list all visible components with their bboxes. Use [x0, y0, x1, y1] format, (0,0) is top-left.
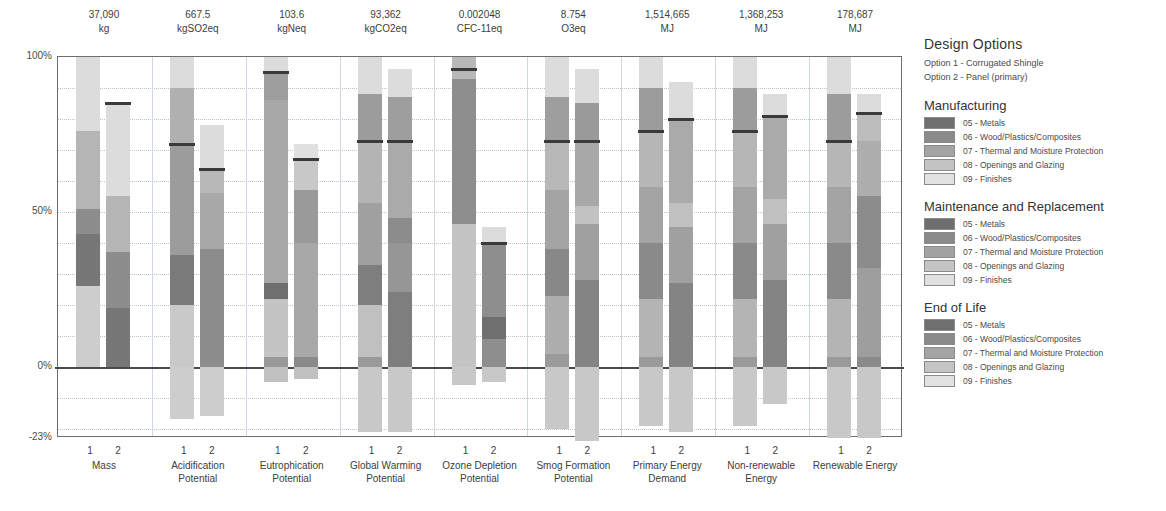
- bar-segment: [827, 57, 851, 94]
- stacked-bar[interactable]: [482, 57, 506, 438]
- bar-segment: [857, 357, 881, 366]
- stacked-bar[interactable]: [545, 57, 569, 438]
- category-value-header: 1,514,665MJ: [620, 8, 714, 36]
- legend-item[interactable]: 08 - Openings and Glazing: [924, 260, 1166, 272]
- stacked-bar[interactable]: [106, 57, 130, 438]
- legend-item[interactable]: 07 - Thermal and Moisture Protection: [924, 347, 1166, 359]
- total-marker: [169, 143, 195, 146]
- bar-index-label: 1: [827, 444, 855, 457]
- bar-segment: [482, 227, 506, 242]
- legend-swatch-icon: [924, 232, 955, 244]
- legend-item[interactable]: 06 - Wood/Plastics/Composites: [924, 232, 1166, 244]
- legend-item[interactable]: 09 - Finishes: [924, 375, 1166, 387]
- stacked-bar[interactable]: [200, 57, 224, 438]
- y-axis-tick: 50%: [0, 205, 52, 216]
- legend-item[interactable]: 06 - Wood/Plastics/Composites: [924, 131, 1166, 143]
- legend-item-label: 09 - Finishes: [963, 376, 1012, 386]
- legend-item[interactable]: 05 - Metals: [924, 218, 1166, 230]
- legend-item[interactable]: 07 - Thermal and Moisture Protection: [924, 246, 1166, 258]
- bar-segment: [106, 196, 130, 252]
- bar-index-label: 1: [733, 444, 761, 457]
- legend-item[interactable]: 09 - Finishes: [924, 274, 1166, 286]
- bar-segment: [264, 100, 288, 283]
- bar-index-labels: 12: [433, 444, 527, 457]
- legend-swatch-icon: [924, 260, 955, 272]
- legend-swatch-icon: [924, 159, 955, 171]
- stacked-bar[interactable]: [669, 57, 693, 438]
- category-name: Ozone Depletion Potential: [433, 459, 527, 485]
- legend-item[interactable]: 05 - Metals: [924, 117, 1166, 129]
- stacked-bar[interactable]: [827, 57, 851, 438]
- legend-item[interactable]: 06 - Wood/Plastics/Composites: [924, 333, 1166, 345]
- bar-index-labels: 12: [151, 444, 245, 457]
- legend-panel: Design Options Option 1 - Corrugated Shi…: [924, 36, 1166, 389]
- total-marker: [105, 102, 131, 105]
- total-marker: [199, 168, 225, 171]
- bar-segment: [358, 203, 382, 265]
- bar-index-label: 1: [76, 444, 104, 457]
- stacked-bar[interactable]: [294, 57, 318, 438]
- legend-item-label: 09 - Finishes: [963, 174, 1012, 184]
- bar-index-label: 1: [264, 444, 292, 457]
- legend-swatch-icon: [924, 333, 955, 345]
- stacked-bar[interactable]: [763, 57, 787, 438]
- legend-swatch-icon: [924, 218, 955, 230]
- bar-segment: [733, 367, 757, 426]
- legend-item[interactable]: 05 - Metals: [924, 319, 1166, 331]
- bar-index-label: 1: [358, 444, 386, 457]
- legend-group-title: Manufacturing: [924, 98, 1166, 113]
- legend-item-label: 06 - Wood/Plastics/Composites: [963, 233, 1081, 243]
- stacked-bar[interactable]: [857, 57, 881, 438]
- bar-segment: [639, 88, 663, 131]
- legend-item[interactable]: 09 - Finishes: [924, 173, 1166, 185]
- legend-groups: Manufacturing05 - Metals06 - Wood/Plasti…: [924, 98, 1166, 387]
- category-footer: 12Acidification Potential: [151, 444, 245, 485]
- category-footer: 12Global Warming Potential: [339, 444, 433, 485]
- legend-item[interactable]: 07 - Thermal and Moisture Protection: [924, 145, 1166, 157]
- gridline-vertical: [340, 57, 341, 436]
- bar-segment: [827, 94, 851, 140]
- bar-index-label: 2: [479, 444, 507, 457]
- bar-segment: [452, 224, 476, 366]
- bar-segment: [857, 268, 881, 358]
- stacked-bar[interactable]: [76, 57, 100, 438]
- legend-swatch-icon: [924, 375, 955, 387]
- legend-group-title: End of Life: [924, 300, 1166, 315]
- bar-segment: [545, 190, 569, 249]
- bar-segment: [170, 255, 194, 305]
- legend-item[interactable]: 08 - Openings and Glazing: [924, 361, 1166, 373]
- category-value: 37,090: [57, 8, 151, 22]
- gridline-vertical: [715, 57, 716, 436]
- category-value-header: 37,090kg: [57, 8, 151, 36]
- category-unit: MJ: [808, 22, 902, 36]
- bar-index-labels: 12: [714, 444, 808, 457]
- bar-segment: [733, 243, 757, 299]
- category-value-header: 93,362kgCO2eq: [339, 8, 433, 36]
- category-value: 667.5: [151, 8, 245, 22]
- category-value-header: 178,687MJ: [808, 8, 902, 36]
- category-value: 178,687: [808, 8, 902, 22]
- bar-segment: [106, 103, 130, 196]
- stacked-bar[interactable]: [733, 57, 757, 438]
- stacked-bar[interactable]: [639, 57, 663, 438]
- bar-segment: [545, 249, 569, 295]
- category-value: 1,368,253: [714, 8, 808, 22]
- total-marker: [293, 158, 319, 161]
- stacked-bar[interactable]: [170, 57, 194, 438]
- bar-segment: [545, 97, 569, 140]
- bar-segment: [575, 69, 599, 103]
- stacked-bar[interactable]: [358, 57, 382, 438]
- category-value: 1,514,665: [620, 8, 714, 22]
- category-name: Smog Formation Potential: [526, 459, 620, 485]
- bar-segment: [388, 243, 412, 293]
- legend-group: Maintenance and Replacement05 - Metals06…: [924, 199, 1166, 286]
- legend-item[interactable]: 08 - Openings and Glazing: [924, 159, 1166, 171]
- stacked-bar[interactable]: [264, 57, 288, 438]
- bar-index-labels: 12: [526, 444, 620, 457]
- stacked-bar[interactable]: [452, 57, 476, 438]
- bar-segment: [669, 203, 693, 228]
- stacked-bar[interactable]: [575, 57, 599, 438]
- bar-segment: [827, 357, 851, 366]
- bar-segment: [200, 125, 224, 168]
- stacked-bar[interactable]: [388, 57, 412, 438]
